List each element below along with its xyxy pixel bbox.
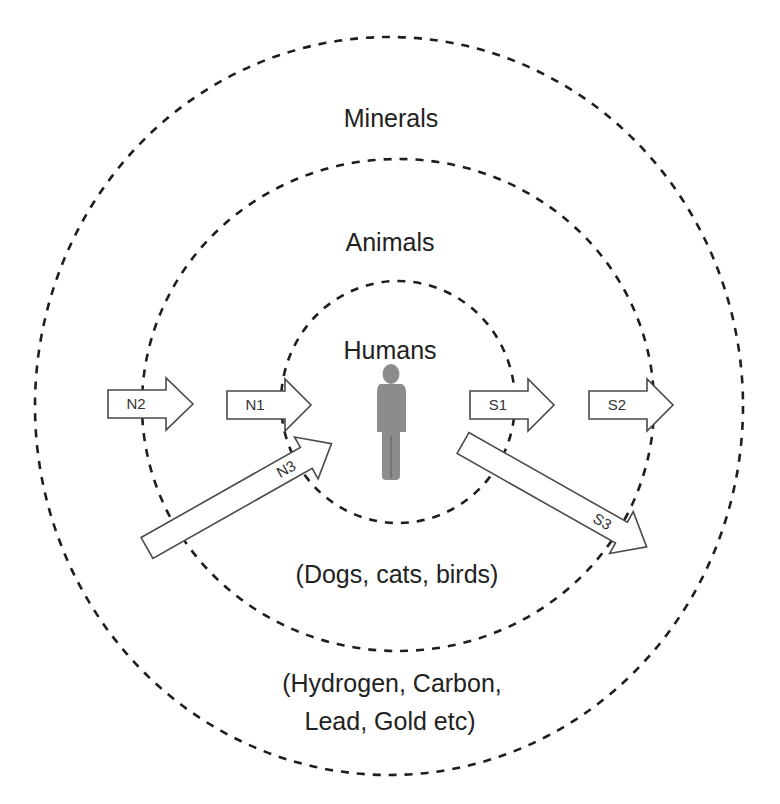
arrow-N1: N1: [227, 379, 311, 431]
arrow-S2: S2: [589, 379, 673, 431]
animals-title: Animals: [346, 228, 435, 256]
concentric-circles-diagram: Minerals Animals Humans (Dogs, cats, bir…: [0, 0, 780, 804]
arrow-N1-label: N1: [245, 396, 264, 413]
minerals-subtitle-line-2: Lead, Gold etc): [305, 707, 476, 735]
arrow-S2-label: S2: [608, 396, 626, 413]
arrow-N2: N2: [108, 378, 193, 430]
arrow-N2-label: N2: [126, 395, 145, 412]
arrow-N3: N3: [135, 423, 343, 569]
humans-title: Humans: [343, 336, 436, 364]
animals-subtitle: (Dogs, cats, birds): [296, 560, 499, 588]
minerals-title: Minerals: [344, 104, 438, 132]
arrow-S1-label: S1: [489, 396, 507, 413]
minerals-subtitle-line-1: (Hydrogen, Carbon,: [282, 669, 502, 697]
arrow-S3: S3: [451, 422, 658, 568]
person-icon: [377, 364, 406, 480]
